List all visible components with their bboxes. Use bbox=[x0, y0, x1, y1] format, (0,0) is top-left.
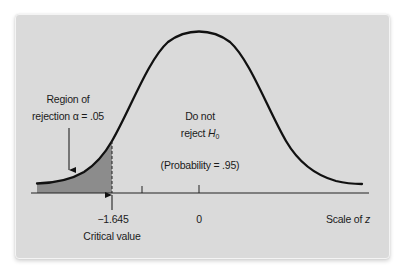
critical-value-label: Critical value bbox=[83, 230, 140, 243]
do-not-label: Do not bbox=[185, 110, 215, 123]
zero-tick-label: 0 bbox=[196, 213, 202, 226]
h-subscript: 0 bbox=[215, 133, 219, 140]
reject-h0-label: reject H0 bbox=[181, 127, 219, 140]
rejection-text: rejection bbox=[32, 110, 73, 122]
alpha-value: = .05 bbox=[79, 110, 104, 122]
h-symbol: H bbox=[208, 127, 215, 139]
region-of-label: Region of bbox=[46, 93, 89, 106]
rejection-region-shading bbox=[37, 141, 112, 193]
probability-label: (Probability = .95) bbox=[161, 159, 240, 172]
rejection-alpha-label: rejection α = .05 bbox=[32, 110, 104, 123]
axis-label: Scale of z bbox=[326, 213, 370, 226]
z-variable: z bbox=[365, 213, 370, 225]
critical-value-tick-label: −1.645 bbox=[97, 213, 128, 226]
reject-text: reject bbox=[181, 127, 208, 139]
axis-label-text: Scale of bbox=[326, 213, 365, 225]
